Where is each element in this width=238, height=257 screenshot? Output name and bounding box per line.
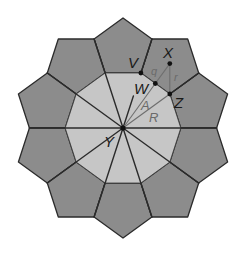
point-Z: [167, 92, 172, 97]
label-X: X: [162, 44, 174, 61]
label-Y: Y: [104, 133, 115, 150]
label-W: W: [134, 80, 150, 97]
point-X: [167, 61, 172, 66]
point-W: [153, 81, 158, 86]
point-V: [139, 71, 144, 76]
point-Y: [120, 125, 125, 130]
label-Z: Z: [173, 94, 184, 111]
label-R: R: [149, 110, 158, 125]
label-q: q: [151, 65, 158, 77]
decagon-pentagon-diagram: V W X Z Y A R q r: [0, 0, 238, 257]
